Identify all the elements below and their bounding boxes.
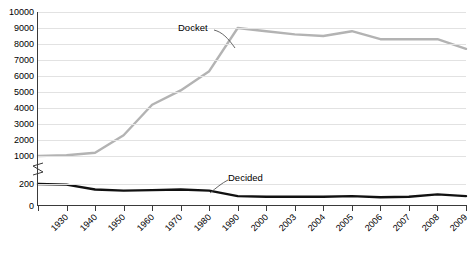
y-tick-label: 1000 bbox=[0, 152, 34, 161]
y-tick-label: 4000 bbox=[0, 104, 34, 113]
x-tick-label: 2007 bbox=[391, 212, 412, 233]
x-tick-label: 1990 bbox=[220, 212, 241, 233]
y-tick-label: 2000 bbox=[0, 136, 34, 145]
y-tick-label: 6000 bbox=[0, 72, 34, 81]
gridline bbox=[38, 92, 466, 93]
gridline bbox=[38, 124, 466, 125]
y-tick-label: 7000 bbox=[0, 56, 34, 65]
x-tick-label: 2009 bbox=[448, 212, 469, 233]
x-tick-label: 2005 bbox=[334, 212, 355, 233]
x-tick-label: 1950 bbox=[106, 212, 127, 233]
y-tick-label: 8000 bbox=[0, 40, 34, 49]
x-axis-labels: 1930194019501960197019801990200020032004… bbox=[0, 210, 473, 254]
x-tick-label: 2003 bbox=[277, 212, 298, 233]
y-tick-label: 200 bbox=[0, 180, 34, 189]
x-tick-label: 1970 bbox=[163, 212, 184, 233]
y-tick-label: 9000 bbox=[0, 24, 34, 33]
series-label-docket: Docket bbox=[178, 22, 208, 33]
gridline bbox=[38, 108, 466, 109]
series-label-decided: Decided bbox=[228, 172, 263, 183]
x-tick-label: 2008 bbox=[420, 212, 441, 233]
x-tick-label: 1940 bbox=[77, 212, 98, 233]
x-tick-label: 1980 bbox=[192, 212, 213, 233]
gridline bbox=[38, 60, 466, 61]
y-tick-label: 10000 bbox=[0, 8, 34, 17]
gridline bbox=[38, 76, 466, 77]
x-tick-label: 2000 bbox=[249, 212, 270, 233]
x-tick-label: 2004 bbox=[306, 212, 327, 233]
gridline bbox=[38, 184, 466, 185]
y-tick-label: 5000 bbox=[0, 88, 34, 97]
x-tick-label: 1960 bbox=[134, 212, 155, 233]
gridline bbox=[38, 44, 466, 45]
axis-break-icon bbox=[31, 160, 45, 178]
line-chart: 10000 9000 8000 7000 6000 5000 4000 3000… bbox=[0, 0, 473, 254]
x-tick-label: 1930 bbox=[49, 212, 70, 233]
series-line-decided bbox=[38, 184, 466, 197]
x-tick-label: 2006 bbox=[363, 212, 384, 233]
gridline bbox=[38, 28, 466, 29]
gridline bbox=[38, 140, 466, 141]
gridline bbox=[38, 156, 466, 157]
gridline bbox=[38, 12, 466, 13]
y-tick-label: 3000 bbox=[0, 120, 34, 129]
